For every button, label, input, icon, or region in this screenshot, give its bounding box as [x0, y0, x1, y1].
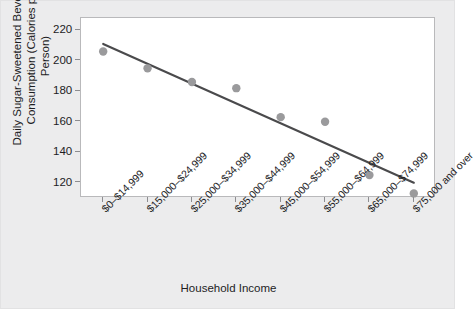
y-axis-ticks: 120140160180200220 — [1, 1, 80, 213]
y-axis-tick: 140 — [53, 144, 80, 158]
data-points-group — [99, 47, 418, 197]
data-point — [143, 64, 151, 72]
y-axis-tick: 180 — [53, 83, 80, 97]
data-point — [321, 118, 329, 126]
data-point — [276, 113, 284, 121]
y-axis-tick: 200 — [53, 53, 80, 67]
y-axis-tick-label: 160 — [53, 115, 72, 127]
y-axis-tick: 160 — [53, 114, 80, 128]
y-axis-tick-label: 220 — [53, 23, 72, 35]
y-axis-tick: 220 — [53, 22, 80, 36]
x-axis-ticks: $0–$14,999$15,000–$24,999$25,000–$34,999… — [80, 197, 436, 205]
y-axis-tick-label: 200 — [53, 54, 72, 66]
y-axis-tick-label: 180 — [53, 84, 72, 96]
y-axis-tick-label: 120 — [53, 176, 72, 188]
data-point — [232, 84, 240, 92]
y-axis-tick-label: 140 — [53, 145, 72, 157]
data-point — [99, 47, 107, 55]
x-axis-title: Household Income — [1, 282, 456, 294]
y-axis-tick: 120 — [53, 175, 80, 189]
data-point — [188, 78, 196, 86]
